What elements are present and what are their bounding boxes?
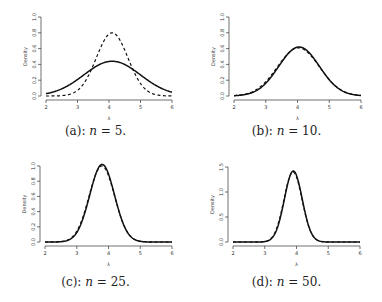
y-tick-label: 0.5	[218, 213, 224, 221]
y-tick-label: 0.8	[31, 29, 37, 37]
y-axis-label: Density	[22, 47, 29, 66]
y-axis-label: Density	[21, 194, 28, 213]
y-tick-label: 0.4	[219, 60, 225, 68]
plot-b: 234560.00.20.40.60.81.0λDensity	[191, 0, 382, 120]
y-tick-label: 0.2	[219, 76, 225, 84]
x-tick-label: 5	[139, 250, 142, 256]
y-tick-label: 0.6	[219, 45, 225, 53]
solid-density-curve	[45, 164, 172, 242]
y-tick-label: 0.2	[30, 223, 36, 231]
y-tick-label: 1.0	[31, 13, 37, 21]
plot-c: 234560.00.20.40.60.81.0λDensity	[0, 151, 191, 271]
panel-c: 234560.00.20.40.60.81.0λDensity (c): n =…	[0, 151, 191, 302]
x-tick-label: 4	[107, 250, 110, 256]
y-tick-label: 1.0	[30, 162, 36, 170]
x-tick-label: 5	[139, 104, 142, 110]
x-tick-label: 4	[295, 250, 298, 256]
plot-d: 234560.00.51.01.5λDensity	[191, 151, 382, 271]
y-tick-label: 1.5	[218, 163, 224, 171]
x-axis-label: λ	[108, 115, 111, 120]
solid-density-curve	[234, 47, 361, 96]
x-tick-label: 2	[232, 104, 235, 110]
y-tick-label: 0.8	[219, 29, 225, 37]
x-tick-label: 3	[264, 104, 267, 110]
x-tick-label: 4	[107, 104, 110, 110]
y-tick-label: 0.0	[218, 238, 224, 246]
plot-a: 234560.00.20.40.60.81.0λDensity	[0, 0, 191, 120]
y-tick-label: 0.4	[31, 60, 37, 68]
y-axis-label: Density	[210, 47, 217, 66]
x-tick-label: 4	[296, 104, 299, 110]
x-tick-label: 2	[44, 104, 47, 110]
panel-b: 234560.00.20.40.60.81.0λDensity (b): n =…	[191, 0, 382, 151]
y-tick-label: 0.6	[31, 45, 37, 53]
x-axis-label: λ	[296, 115, 299, 120]
solid-density-curve	[233, 171, 360, 242]
x-tick-label: 2	[43, 250, 46, 256]
solid-density-curve	[46, 61, 172, 93]
x-tick-label: 6	[359, 104, 362, 110]
x-tick-label: 3	[76, 104, 79, 110]
dashed-density-curve	[233, 172, 360, 242]
x-axis-label: λ	[107, 261, 110, 267]
x-axis-label: λ	[295, 261, 298, 267]
y-axis-label: Density	[209, 195, 216, 214]
panel-a: 234560.00.20.40.60.81.0λDensity (a): n =…	[0, 0, 191, 151]
y-tick-label: 1.0	[219, 13, 225, 21]
y-tick-label: 0.0	[31, 92, 37, 100]
caption-a: (a): n = 5.	[0, 124, 191, 138]
x-tick-label: 3	[75, 250, 78, 256]
x-tick-label: 2	[231, 250, 234, 256]
panel-d: 234560.00.51.01.5λDensity (d): n = 50.	[191, 151, 382, 302]
x-tick-label: 5	[328, 104, 331, 110]
caption-c: (c): n = 25.	[0, 275, 191, 289]
y-tick-label: 0.6	[30, 192, 36, 200]
y-tick-label: 1.0	[218, 188, 224, 196]
dashed-density-curve	[45, 166, 172, 242]
x-tick-label: 6	[170, 250, 173, 256]
dashed-density-curve	[234, 48, 361, 96]
x-tick-label: 5	[327, 250, 330, 256]
caption-d: (d): n = 50.	[191, 275, 382, 289]
y-tick-label: 0.2	[31, 76, 37, 84]
caption-b: (b): n = 10.	[191, 124, 382, 138]
x-tick-label: 3	[263, 250, 266, 256]
x-tick-label: 6	[358, 250, 361, 256]
y-tick-label: 0.4	[30, 208, 36, 216]
x-tick-label: 6	[170, 104, 173, 110]
y-tick-label: 0.8	[30, 177, 36, 185]
y-tick-label: 0.0	[219, 92, 225, 100]
y-tick-label: 0.0	[30, 238, 36, 246]
